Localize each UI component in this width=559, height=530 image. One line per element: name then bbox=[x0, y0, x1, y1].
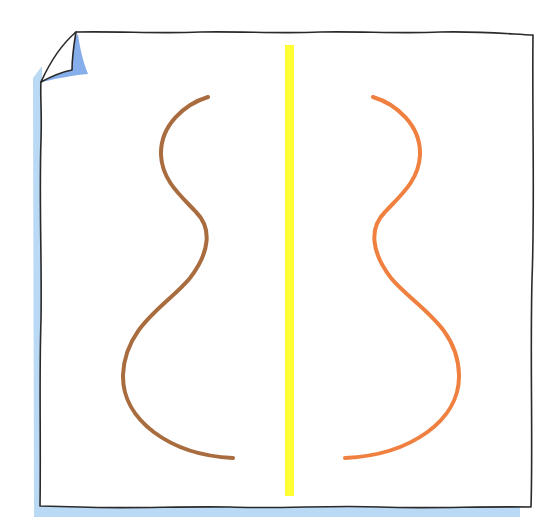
symmetry-axis bbox=[285, 45, 294, 496]
paper-canvas bbox=[0, 0, 559, 530]
